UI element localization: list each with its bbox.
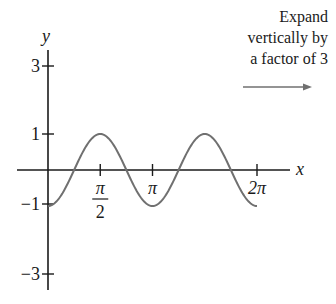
y-tick-label: 1	[31, 124, 40, 144]
x-tick-label-denominator: 2	[96, 202, 105, 222]
x-tick-label-numerator: π	[96, 178, 106, 198]
chart-figure: π2π2π31−1−3 x y Expand vertically by a f…	[0, 0, 336, 304]
x-axis-label: x	[295, 159, 304, 179]
annotation-text: Expand vertically by a factor of 3	[198, 6, 328, 69]
y-tick-label: −1	[21, 194, 40, 214]
y-tick-label: 3	[31, 56, 40, 76]
annotation-line-2: vertically by	[198, 27, 328, 48]
x-tick-label: 2π	[248, 178, 267, 198]
x-tick-label: π	[148, 178, 158, 198]
annotation-line-1: Expand	[198, 6, 328, 27]
annotation-line-3: a factor of 3	[198, 48, 328, 69]
y-tick-label: −3	[21, 264, 40, 284]
arrow-head-icon	[303, 84, 312, 91]
y-axis-label: y	[40, 26, 50, 46]
